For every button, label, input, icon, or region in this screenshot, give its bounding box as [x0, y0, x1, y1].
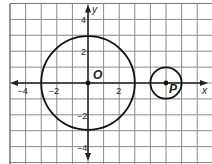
background	[0, 0, 212, 164]
y-tick-label: 4	[81, 15, 86, 25]
coordinate-plane-figure: OP −4−2242−2−4xy	[0, 0, 212, 164]
y-tick-label: 2	[81, 47, 86, 57]
point-label-p: P	[169, 82, 178, 96]
x-axis-label: x	[201, 85, 208, 96]
x-tick-label: −2	[49, 86, 59, 96]
y-axis-label: y	[91, 4, 98, 15]
point-p	[164, 81, 169, 86]
point-label-o: O	[93, 68, 103, 82]
x-tick-label: 2	[116, 86, 121, 96]
y-tick-label: −4	[77, 143, 87, 153]
x-tick-label: −4	[18, 86, 28, 96]
point-o	[86, 81, 91, 86]
y-tick-label: −2	[77, 111, 87, 121]
